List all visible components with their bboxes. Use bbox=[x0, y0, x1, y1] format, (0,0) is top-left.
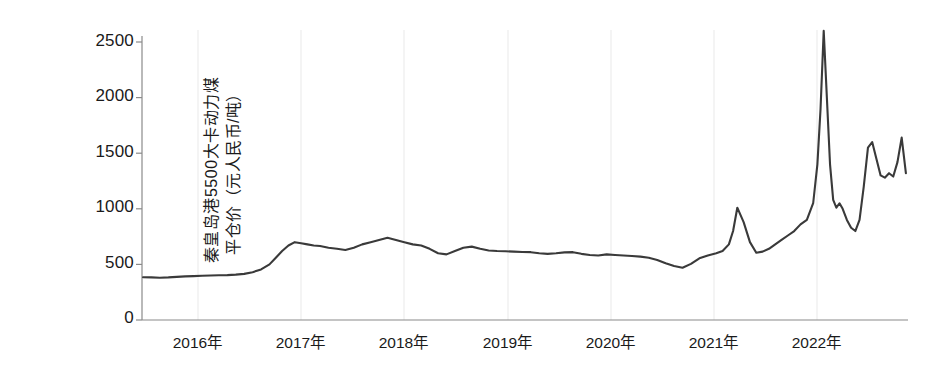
chart-figure: 秦皇岛港5500大卡动力煤 平仓价（元人民币/吨） 2500 2000 1500… bbox=[0, 0, 929, 380]
vertical-gridlines bbox=[198, 30, 817, 320]
price-series-line bbox=[143, 31, 906, 278]
plot-area bbox=[0, 0, 929, 380]
y-axis-ticks bbox=[136, 42, 142, 320]
